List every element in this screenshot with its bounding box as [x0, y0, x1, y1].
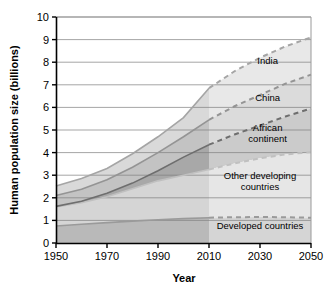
x-tick-label-1990: 1990: [146, 250, 170, 262]
x-tick-label-1950: 1950: [44, 250, 68, 262]
population-projection-chart: 012345678910 195019701990201020302050 In…: [0, 0, 334, 290]
y-tick-label-6: 6: [43, 101, 49, 113]
x-tick-label-2010: 2010: [197, 250, 221, 262]
annotation-continent: continent: [248, 133, 287, 144]
annotation-countries: countries: [241, 181, 280, 192]
annotation-other-developing: Other developing: [224, 170, 296, 181]
y-tick-label-8: 8: [43, 56, 49, 68]
x-axis-ticks: 195019701990201020302050: [44, 243, 323, 262]
x-tick-label-2050: 2050: [299, 250, 323, 262]
y-tick-label-4: 4: [43, 147, 49, 159]
y-tick-label-0: 0: [43, 237, 49, 249]
y-tick-label-3: 3: [43, 169, 49, 181]
x-axis-title: Year: [172, 272, 196, 284]
y-tick-label-10: 10: [37, 11, 49, 23]
y-tick-label-1: 1: [43, 214, 49, 226]
chart-figure: 012345678910 195019701990201020302050 In…: [0, 0, 334, 290]
annotation-african: African: [253, 122, 283, 133]
x-tick-label-2030: 2030: [248, 250, 272, 262]
y-tick-label-9: 9: [43, 34, 49, 46]
annotation-india: India: [257, 55, 278, 66]
y-tick-label-7: 7: [43, 79, 49, 91]
annotation-china: China: [255, 92, 281, 103]
y-axis-ticks: 012345678910: [37, 11, 56, 249]
x-tick-label-1970: 1970: [95, 250, 119, 262]
y-tick-label-5: 5: [43, 124, 49, 136]
annotation-developed-countries: Developed countries: [217, 220, 304, 231]
y-tick-label-2: 2: [43, 192, 49, 204]
y-axis-title: Human population size (billions): [8, 45, 20, 215]
